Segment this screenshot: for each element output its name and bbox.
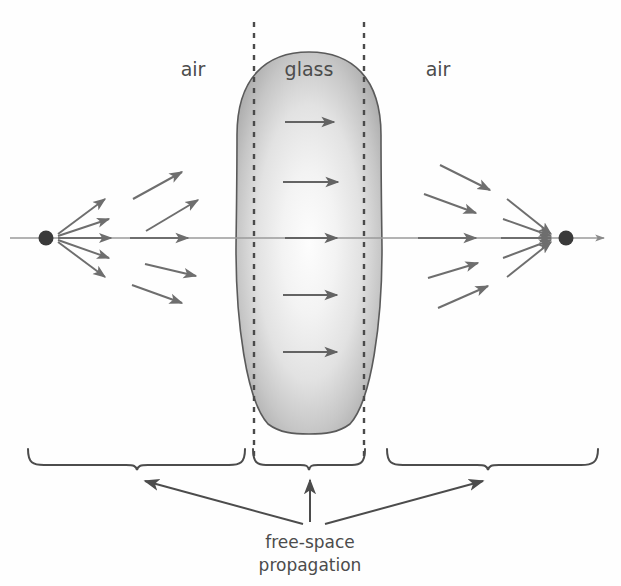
optics-diagram: air glass air free-space propagation [0, 0, 621, 586]
caption-line-1: free-space [265, 532, 355, 552]
caption-line-2: propagation [259, 555, 362, 575]
caption-leader-arrows [145, 480, 483, 524]
air-left-ray [145, 264, 196, 276]
air-left-ray [133, 172, 182, 199]
label-air-right: air [426, 58, 451, 80]
air-right-rays [418, 165, 490, 308]
label-air-left: air [181, 58, 206, 80]
air-right-ray [424, 194, 476, 213]
focus-point [559, 231, 574, 246]
brace-middle [253, 449, 365, 470]
air-left-ray [132, 285, 182, 303]
brace-left [28, 449, 245, 470]
glass-lens-shape [236, 52, 382, 434]
caption-arrow-right [325, 481, 483, 524]
source-ray [58, 240, 109, 258]
air-right-ray [438, 286, 488, 308]
focus-rays [501, 199, 551, 277]
air-right-ray [440, 165, 490, 190]
air-left-rays [130, 172, 198, 303]
braces [28, 449, 598, 470]
figure-canvas: air glass air free-space propagation [0, 0, 621, 586]
focus-ray [503, 240, 551, 258]
caption-arrow-left [145, 481, 303, 524]
brace-right [387, 449, 598, 470]
air-right-ray [428, 263, 478, 278]
source-point [39, 231, 54, 246]
source-ray [58, 242, 105, 277]
source-rays [58, 199, 111, 277]
label-glass: glass [285, 58, 334, 80]
air-left-ray [146, 200, 198, 231]
glass-lens [236, 52, 382, 434]
